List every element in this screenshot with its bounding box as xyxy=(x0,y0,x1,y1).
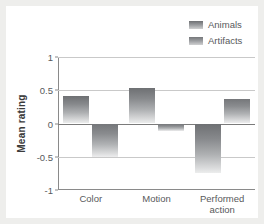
y-tick-label: 1 xyxy=(48,52,53,63)
legend-label-artifacts: Artifacts xyxy=(208,36,242,46)
y-axis-title: Mean rating xyxy=(14,57,28,190)
y-tick-label: 0 xyxy=(48,118,53,129)
figure-panel: Animals Artifacts Mean rating 10.50-0.5-… xyxy=(6,6,258,218)
legend-swatch-animals-icon xyxy=(189,21,203,29)
gridline--0.5 xyxy=(58,157,255,158)
bar-animals-2 xyxy=(195,124,221,173)
x-tick-label-2: Performed action xyxy=(189,193,255,215)
y-tick-mark xyxy=(55,123,58,124)
gridline-0 xyxy=(58,124,255,125)
bar-artifacts-0 xyxy=(92,124,118,157)
y-tick-label: -1 xyxy=(45,185,53,196)
bar-artifacts-2 xyxy=(224,99,250,124)
y-tick-mark xyxy=(55,156,58,157)
y-tick-mark xyxy=(55,57,58,58)
gridline-1 xyxy=(58,57,255,58)
gridline-0.5 xyxy=(58,90,255,91)
x-tick-label-1: Motion xyxy=(124,193,190,204)
y-tick-label: 0.5 xyxy=(40,85,53,96)
x-tick-label-0: Color xyxy=(58,193,124,204)
legend-item-artifacts: Artifacts xyxy=(189,34,261,47)
y-axis-title-text: Mean rating xyxy=(16,94,27,152)
bar-animals-0 xyxy=(63,96,89,124)
bar-animals-1 xyxy=(129,88,155,123)
plot-area: 10.50-0.5-1 ColorMotionPerformed action xyxy=(58,57,255,190)
legend-label-animals: Animals xyxy=(208,20,242,30)
chart-legend: Animals Artifacts xyxy=(189,18,261,50)
legend-swatch-artifacts-icon xyxy=(189,37,203,45)
y-tick-mark xyxy=(55,90,58,91)
legend-item-animals: Animals xyxy=(189,18,261,31)
bar-artifacts-1 xyxy=(158,124,184,131)
y-tick-mark xyxy=(55,190,58,191)
y-tick-label: -0.5 xyxy=(37,151,53,162)
